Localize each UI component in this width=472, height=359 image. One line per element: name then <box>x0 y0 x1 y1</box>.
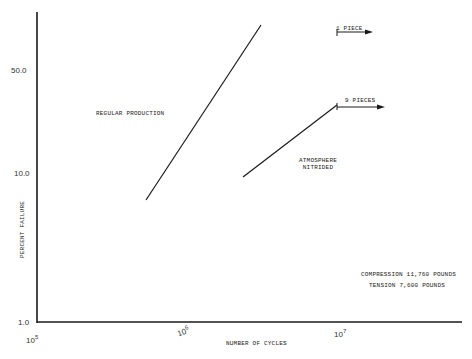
tension-note: TENSION 7,600 POUNDS <box>369 282 445 289</box>
chart-plot <box>0 0 472 359</box>
regular-production-label: REGULAR PRODUCTION <box>96 110 164 117</box>
nine-pieces-arrow <box>337 103 385 110</box>
nitrided-label-1: ATMOSPHERE <box>296 157 340 164</box>
compression-note: COMPRESSION 11,760 POUNDS <box>361 271 456 278</box>
x-axis-label: NUMBER OF CYCLES <box>226 340 287 347</box>
y-tick-10: 10.0 <box>14 169 30 178</box>
x-tick-1e5: 105 <box>26 334 38 345</box>
nine-pieces-label: 9 PIECES <box>345 97 375 104</box>
y-tick-1: 1.0 <box>18 318 29 327</box>
x-tick-1e7: 107 <box>334 328 346 339</box>
y-axis-label: PERCENT FAILURE <box>19 201 26 258</box>
nitrided-label-2: NITRIDED <box>296 164 340 171</box>
one-piece-label: 1 PIECE <box>336 25 363 32</box>
y-tick-50: 50.0 <box>11 66 27 75</box>
